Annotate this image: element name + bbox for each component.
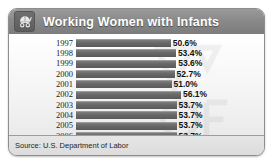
- bar-value-label: 53.4%: [178, 49, 202, 58]
- bar-1999: [76, 60, 176, 68]
- bar-category-label: 2001: [9, 80, 76, 89]
- bar-2001: [76, 80, 172, 88]
- table-row: 1999 53.6%: [9, 59, 264, 69]
- source-label: Source: U.S. Department of Labor: [15, 141, 128, 150]
- table-row: 2002 56.1%: [9, 89, 264, 99]
- bar-2003: [76, 101, 177, 109]
- bar-2000: [76, 70, 175, 78]
- table-row: 1998 53.4%: [9, 48, 264, 58]
- bar-value-label: 51.0%: [174, 80, 198, 89]
- bar-category-label: 1997: [9, 39, 76, 48]
- bar-value-label: 53.7%: [179, 121, 203, 130]
- bar-value-label: 56.1%: [183, 90, 207, 99]
- bar-category-label: 1998: [9, 49, 76, 58]
- table-row: 2001 51.0%: [9, 79, 264, 89]
- chart-header: Working Women with Infants: [9, 9, 264, 35]
- bar-value-label: 53.6%: [178, 59, 202, 68]
- chart-footer: Source: U.S. Department of Labor: [9, 135, 264, 155]
- bar-category-label: 2004: [9, 111, 76, 120]
- bar-1997: [76, 39, 171, 47]
- bar-category-label: 2005: [9, 121, 76, 130]
- table-row: 2003 53.7%: [9, 100, 264, 110]
- table-row: 2005 53.7%: [9, 120, 264, 130]
- bar-category-label: 2000: [9, 70, 76, 79]
- bar-category-label: 2002: [9, 90, 76, 99]
- stroller-icon: [14, 11, 35, 32]
- bar-value-label: 50.6%: [173, 39, 197, 48]
- bar-value-label: 52.7%: [177, 70, 201, 79]
- bar-value-label: 53.7%: [179, 111, 203, 120]
- bar-category-label: 2003: [9, 101, 76, 110]
- table-row: 1997 50.6%: [9, 38, 264, 48]
- bar-value-label: 53.7%: [179, 101, 203, 110]
- chart-panel: Working Women with Infants 1997 50.6% 19…: [8, 8, 265, 156]
- table-row: 2004 53.7%: [9, 110, 264, 120]
- bar-2004: [76, 111, 177, 119]
- chart-title: Working Women with Infants: [43, 15, 219, 29]
- bar-1998: [76, 49, 176, 57]
- bar-2002: [76, 91, 181, 99]
- chart-plot-area: 1997 50.6% 1998 53.4% 1999 53.6% 2000 52…: [9, 34, 264, 136]
- bar-rows: 1997 50.6% 1998 53.4% 1999 53.6% 2000 52…: [9, 38, 264, 136]
- bar-2005: [76, 122, 177, 130]
- table-row: 2000 52.7%: [9, 69, 264, 79]
- bar-category-label: 1999: [9, 59, 76, 68]
